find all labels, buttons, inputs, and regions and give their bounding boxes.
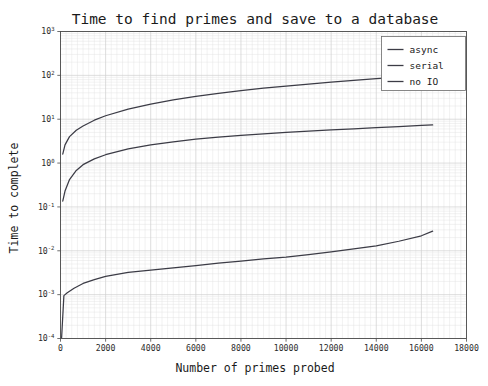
chart-title: Time to find primes and save to a databa… xyxy=(72,11,439,27)
x-tick-label: 12000 xyxy=(319,343,344,353)
chart-figure: 0200040006000800010000120001400016000180… xyxy=(0,0,488,386)
chart-legend[interactable]: asyncserialno IO xyxy=(382,37,466,91)
x-tick-label: 8000 xyxy=(231,343,251,353)
x-tick-label: 4000 xyxy=(141,343,161,353)
x-tick-label: 0 xyxy=(58,343,63,353)
x-tick-label: 14000 xyxy=(364,343,389,353)
x-tick-label: 10000 xyxy=(274,343,299,353)
legend-label-serial[interactable]: serial xyxy=(410,60,444,71)
y-axis-label: Time to complete xyxy=(7,143,21,254)
legend-label-no-io[interactable]: no IO xyxy=(410,76,439,87)
x-tick-label: 2000 xyxy=(96,343,116,353)
x-tick-label: 16000 xyxy=(409,343,434,353)
x-tick-label: 6000 xyxy=(186,343,206,353)
legend-label-async[interactable]: async xyxy=(410,44,439,55)
x-axis-label: Number of primes probed xyxy=(175,361,334,375)
line-chart: 0200040006000800010000120001400016000180… xyxy=(0,0,488,386)
x-tick-label: 18000 xyxy=(454,343,479,353)
